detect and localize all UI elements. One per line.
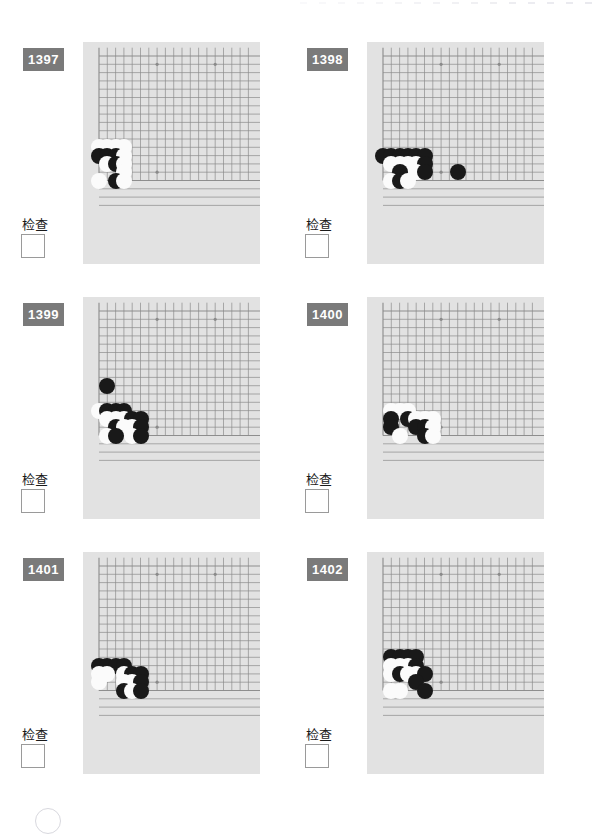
white-stone[interactable]	[116, 173, 132, 189]
puzzle-number-text: 1400	[312, 307, 343, 322]
check-checkbox[interactable]	[305, 744, 329, 768]
check-checkbox[interactable]	[305, 489, 329, 513]
go-board[interactable]	[367, 297, 544, 519]
check-checkbox[interactable]	[21, 744, 45, 768]
go-board[interactable]	[367, 552, 544, 774]
white-stone[interactable]	[425, 428, 441, 444]
check-label: 检查	[306, 214, 332, 233]
check-label: 检查	[306, 469, 332, 488]
check-checkbox[interactable]	[305, 234, 329, 258]
black-stone[interactable]	[133, 683, 149, 699]
check-label: 检查	[22, 214, 48, 233]
go-board[interactable]	[83, 297, 260, 519]
puzzle-number-badge: 1401	[23, 558, 64, 581]
puzzle-number-badge: 1402	[307, 558, 348, 581]
puzzle-number-badge: 1398	[307, 48, 348, 71]
white-stone[interactable]	[400, 173, 416, 189]
black-stone[interactable]	[450, 164, 466, 180]
check-checkbox[interactable]	[21, 489, 45, 513]
puzzle-number-text: 1398	[312, 52, 343, 67]
puzzle-number-badge: 1399	[23, 303, 64, 326]
puzzle-number-text: 1397	[28, 52, 59, 67]
go-board[interactable]	[83, 42, 260, 264]
check-label: 检查	[22, 469, 48, 488]
puzzle-number-badge: 1397	[23, 48, 64, 71]
black-stone[interactable]	[417, 164, 433, 180]
check-label: 检查	[306, 724, 332, 743]
puzzle-number-text: 1401	[28, 562, 59, 577]
white-stone[interactable]	[91, 173, 107, 189]
puzzle-number-text: 1399	[28, 307, 59, 322]
white-stone[interactable]	[392, 428, 408, 444]
black-stone[interactable]	[417, 683, 433, 699]
check-label: 检查	[22, 724, 48, 743]
page-bottom-arc-decoration	[35, 808, 61, 834]
puzzle-number-badge: 1400	[307, 303, 348, 326]
check-checkbox[interactable]	[21, 234, 45, 258]
black-stone[interactable]	[133, 428, 149, 444]
white-stone[interactable]	[392, 683, 408, 699]
go-board[interactable]	[367, 42, 544, 264]
go-board[interactable]	[83, 552, 260, 774]
puzzle-number-text: 1402	[312, 562, 343, 577]
black-stone[interactable]	[99, 378, 115, 394]
black-stone[interactable]	[108, 428, 124, 444]
